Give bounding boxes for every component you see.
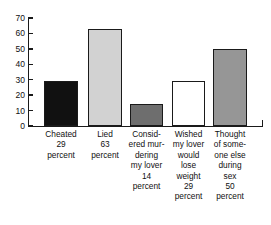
bar: [213, 49, 247, 126]
bar: [172, 81, 205, 126]
category-label-line: 50: [202, 181, 258, 191]
category-label: Thoughtof some-one elseduringsex50percen…: [202, 129, 258, 202]
category-label-line: during: [202, 160, 258, 170]
category-label-line: percent: [202, 191, 258, 201]
x-axis-baseline: [28, 126, 263, 127]
bars-layer: [0, 0, 271, 126]
bar: [88, 29, 122, 126]
bar-chart: 010203040506070 Cheated29percentLied63pe…: [0, 0, 271, 225]
bar: [44, 81, 78, 126]
category-label-line: Thought: [202, 129, 258, 139]
bar: [130, 104, 163, 126]
category-label-line: one else: [202, 150, 258, 160]
category-label-line: of some-: [202, 139, 258, 149]
category-labels: Cheated29percentLied63percentConsid-ered…: [0, 129, 271, 225]
category-label-line: sex: [202, 171, 258, 181]
